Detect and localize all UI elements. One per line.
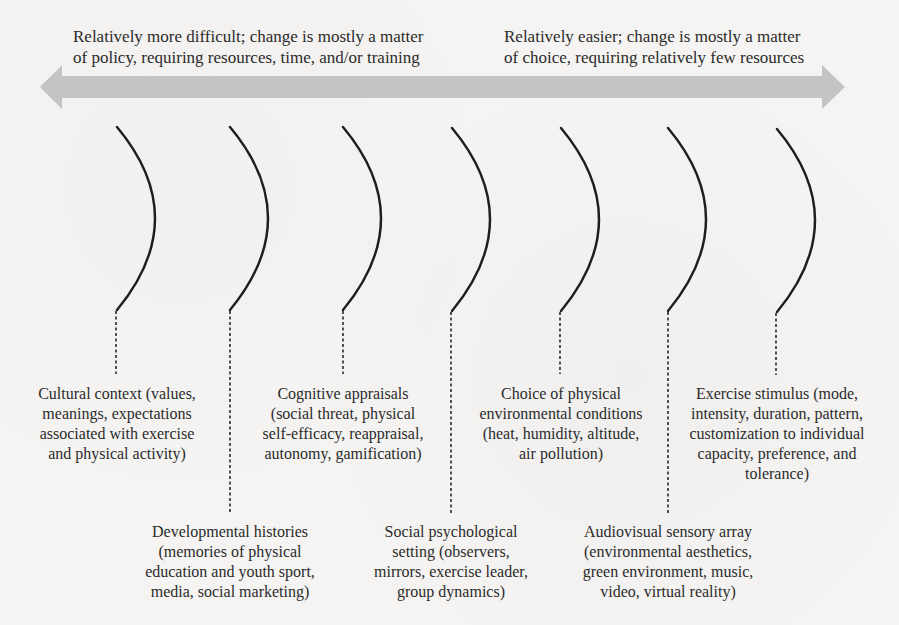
- factor-7-line-4: capacity, preference, and: [689, 444, 864, 464]
- curve-2: [230, 127, 268, 310]
- factor-4-line-4: group dynamics): [374, 582, 528, 602]
- factor-label-developmental-histories: Developmental histories (memories of phy…: [145, 522, 315, 602]
- curve-3: [343, 127, 381, 310]
- factor-label-exercise-stimulus: Exercise stimulus (mode, intensity, dura…: [689, 384, 864, 484]
- curve-5: [561, 128, 599, 311]
- curve-7: [777, 129, 815, 312]
- double-arrow-icon: [40, 65, 845, 109]
- curve-1: [117, 127, 155, 310]
- leader-lines: [116, 311, 776, 513]
- factor-5-line-3: (heat, humidity, altitude,: [479, 424, 642, 444]
- factor-4-line-3: mirrors, exercise leader,: [374, 562, 528, 582]
- factor-2-line-2: (memories of physical: [145, 542, 315, 562]
- factor-1-line-3: associated with exercise: [38, 424, 196, 444]
- factor-6-line-2: (environmental aesthetics,: [583, 542, 754, 562]
- factor-5-line-4: air pollution): [479, 444, 642, 464]
- factor-3-line-1: Cognitive appraisals: [263, 384, 424, 404]
- factor-4-line-2: setting (observers,: [374, 542, 528, 562]
- factor-label-social-psychological-setting: Social psychological setting (observers,…: [374, 522, 528, 602]
- factor-label-audiovisual-sensory-array: Audiovisual sensory array (environmental…: [583, 522, 754, 602]
- factor-5-line-2: environmental conditions: [479, 404, 642, 424]
- factor-6-line-1: Audiovisual sensory array: [583, 522, 754, 542]
- factor-2-line-1: Developmental histories: [145, 522, 315, 542]
- factor-2-line-4: media, social marketing): [145, 582, 315, 602]
- factor-label-cultural-context: Cultural context (values, meanings, expe…: [38, 384, 196, 464]
- factor-4-line-1: Social psychological: [374, 522, 528, 542]
- factor-7-line-1: Exercise stimulus (mode,: [689, 384, 864, 404]
- curve-group: [117, 127, 815, 312]
- factor-3-line-3: self-efficacy, reappraisal,: [263, 424, 424, 444]
- factor-1-line-1: Cultural context (values,: [38, 384, 196, 404]
- factor-5-line-1: Choice of physical: [479, 384, 642, 404]
- factor-1-line-4: and physical activity): [38, 444, 196, 464]
- factor-7-line-5: tolerance): [689, 464, 864, 484]
- curve-6: [668, 128, 706, 311]
- factor-1-line-2: meanings, expectations: [38, 404, 196, 424]
- factor-7-line-2: intensity, duration, pattern,: [689, 404, 864, 424]
- factor-label-cognitive-appraisals: Cognitive appraisals (social threat, phy…: [263, 384, 424, 464]
- curve-4: [452, 128, 490, 311]
- factor-2-line-3: education and youth sport,: [145, 562, 315, 582]
- factor-3-line-2: (social threat, physical: [263, 404, 424, 424]
- factor-7-line-3: customization to individual: [689, 424, 864, 444]
- factor-label-physical-environment: Choice of physical environmental conditi…: [479, 384, 642, 464]
- factor-3-line-4: autonomy, gamification): [263, 444, 424, 464]
- factor-6-line-3: green environment, music,: [583, 562, 754, 582]
- factor-6-line-4: video, virtual reality): [583, 582, 754, 602]
